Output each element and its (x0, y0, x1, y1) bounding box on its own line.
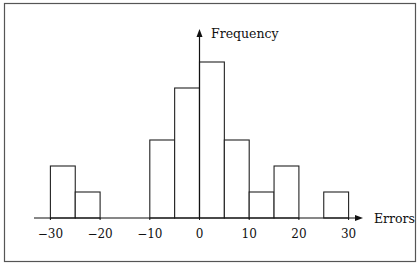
histogram-bar (324, 192, 349, 218)
x-tick-label: 20 (291, 227, 306, 241)
histogram-bar (50, 166, 75, 218)
x-tick-label: −10 (137, 227, 162, 241)
histogram-bar (75, 192, 100, 218)
x-tick-label: −20 (87, 227, 112, 241)
x-axis-arrow-icon (355, 215, 363, 221)
x-ticks: −30−20−100102030 (38, 218, 357, 241)
histogram-bar (150, 140, 175, 218)
x-tick-label: 30 (341, 227, 356, 241)
y-axis-label: Frequency (211, 26, 280, 41)
histogram-bar (249, 192, 274, 218)
histogram-bar (274, 166, 299, 218)
x-tick-label: −30 (38, 227, 63, 241)
x-tick-label: 0 (196, 227, 204, 241)
x-tick-label: 10 (242, 227, 257, 241)
histogram-bar (175, 88, 200, 218)
x-axis-label: Errors (374, 211, 415, 226)
y-axis-arrow-icon (197, 29, 203, 37)
histogram-chart: −30−20−100102030 Frequency Errors (0, 0, 420, 265)
histogram-bar (224, 140, 249, 218)
histogram-bar (200, 62, 225, 218)
